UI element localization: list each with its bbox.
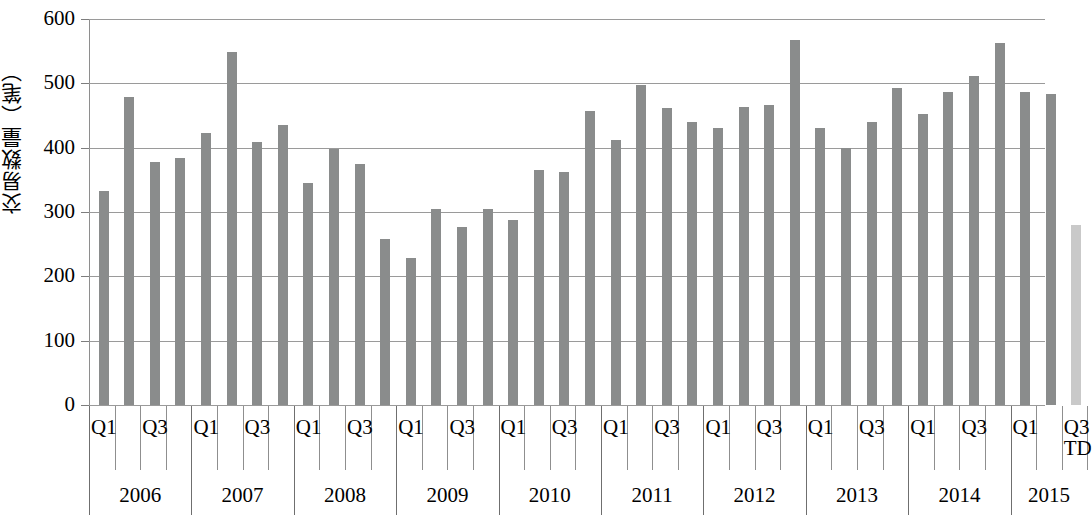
y-tick-label: 600 [20,8,75,29]
y-tick-label: 200 [20,265,75,286]
bar [508,220,518,405]
year-label: 2014 [908,484,1010,506]
quarter-tick [652,406,653,470]
bar [713,128,723,405]
y-tick-mark [81,405,89,406]
y-tick-mark [81,276,89,277]
bar [99,191,109,405]
quarter-label: Q1 [808,416,834,438]
quarter-label: Q1 [910,416,936,438]
quarter-label: Q3 [961,416,987,438]
bar [867,122,877,405]
quarter-label: Q3 [245,416,271,438]
year-label: 2013 [806,484,908,506]
bar [636,85,646,405]
quarter-tick [447,406,448,470]
year-label: 2012 [703,484,805,506]
bar [329,149,339,405]
bar [380,239,390,405]
quarter-label: Q1 [603,416,629,438]
bar [303,183,313,405]
quarter-label: Q1 [193,416,219,438]
bar [969,76,979,405]
y-tick-mark [81,148,89,149]
bar [918,114,928,405]
year-label: 2006 [89,484,191,506]
quarter-label: Q3 [757,416,783,438]
y-tick-label: 100 [20,330,75,351]
gridline [89,19,1045,20]
bar [355,164,365,405]
quarter-tick [1062,406,1063,470]
bar [534,170,544,405]
bar [739,107,749,406]
bar [559,172,569,405]
quarter-label: Q3 [552,416,578,438]
bar [585,111,595,405]
quarter-label: Q3 [449,416,475,438]
quarter-label: Q1 [398,416,424,438]
bar [175,158,185,405]
quarter-label: Q1 [501,416,527,438]
bar [278,125,288,405]
bar [611,140,621,405]
bar [150,162,160,405]
quarter-label: Q3 [654,416,680,438]
quarter-tick [857,406,858,470]
bar [662,108,672,405]
y-tick-label: 500 [20,72,75,93]
quarter-label: Q3 [347,416,373,438]
bar [764,105,774,405]
year-label: 2015 [1011,484,1088,506]
quarter-tick [243,406,244,470]
quarter-label: Q1 [91,416,117,438]
y-tick-label: 400 [20,137,75,158]
y-tick-mark [81,83,89,84]
bar [790,40,800,405]
quarter-label: Q1 [296,416,322,438]
bar [687,122,697,405]
bar [815,128,825,405]
bar [227,52,237,405]
year-label: 2007 [191,484,293,506]
quarter-tick [755,406,756,470]
bar [1020,92,1030,405]
y-tick-label: 300 [20,201,75,222]
quarter-label: Q1 [705,416,731,438]
gridline [89,405,1045,406]
bar [406,258,416,405]
quarter-tick [550,406,551,470]
quarter-tick [140,406,141,470]
quarter-label: Q3 [859,416,885,438]
year-label: 2011 [601,484,703,506]
quarter-label: Q3TD [1064,416,1092,459]
bar [1046,94,1056,405]
plot-area [89,19,1045,405]
quarter-label: Q1 [1013,416,1039,438]
year-label: 2008 [294,484,396,506]
bar [1071,225,1081,405]
bar [483,209,493,405]
y-tick-mark [81,212,89,213]
bar [252,142,262,405]
bar [457,227,467,405]
y-tick-mark [81,19,89,20]
year-label: 2009 [396,484,498,506]
quarter-label: Q3 [142,416,168,438]
quarter-tick [959,406,960,470]
bar [892,88,902,405]
bar [431,209,441,405]
y-tick-label: 0 [20,394,75,415]
bar [841,148,851,405]
bar [201,133,211,405]
y-tick-mark [81,341,89,342]
bar [943,92,953,405]
quarter-tick [345,406,346,470]
bar [124,97,134,405]
quarter-label-sub: TD [1064,438,1092,459]
year-label: 2010 [499,484,601,506]
bar [995,43,1005,405]
